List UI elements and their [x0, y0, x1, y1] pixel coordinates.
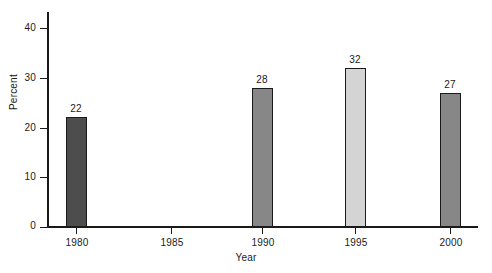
y-tick-label-30: 30: [18, 73, 36, 83]
y-tick-0: [40, 227, 47, 228]
x-tick-1995: [355, 228, 356, 234]
x-tick-label-1990: 1990: [233, 237, 293, 248]
x-tick-1990: [262, 228, 263, 234]
y-tick-10: [40, 177, 47, 178]
x-tick-label-1985: 1985: [142, 237, 202, 248]
bar-1995: [345, 68, 366, 227]
x-tick-label-2000: 2000: [421, 237, 481, 248]
x-tick-1980: [76, 228, 77, 234]
bar-1990: [252, 88, 273, 227]
bar-value-label-1995: 32: [330, 54, 380, 65]
y-tick-label-20: 20: [18, 123, 36, 133]
y-tick-30: [40, 78, 47, 79]
x-tick-1985: [171, 228, 172, 234]
y-tick-label-10: 10: [18, 172, 36, 182]
y-tick-20: [40, 128, 47, 129]
y-tick-40: [40, 28, 47, 29]
bar-chart: 40 30 20 10 0 1980 1985 1990 1995 2000 2…: [0, 0, 492, 273]
bar-value-label-1980: 22: [51, 103, 101, 114]
x-tick-label-1980: 1980: [47, 237, 107, 248]
y-axis-title: Percent: [8, 96, 19, 110]
bar-1980: [66, 117, 87, 227]
x-tick-2000: [450, 228, 451, 234]
bar-2000: [440, 93, 461, 227]
y-axis-line: [47, 12, 49, 228]
y-tick-label-0: 0: [18, 221, 36, 231]
y-tick-label-40: 40: [18, 23, 36, 33]
bar-value-label-2000: 27: [425, 79, 475, 90]
x-axis-title: Year: [0, 252, 492, 263]
bar-value-label-1990: 28: [237, 74, 287, 85]
x-tick-label-1995: 1995: [326, 237, 386, 248]
